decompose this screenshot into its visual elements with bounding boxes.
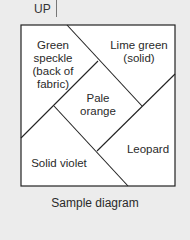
region-label-green-speckle: Green speckle (back of fabric): [24, 39, 82, 91]
label-line: Green: [24, 39, 82, 52]
label-line: (back of: [24, 65, 82, 78]
label-line: (solid): [104, 52, 174, 65]
label-line: fabric): [24, 78, 82, 91]
label-line: Solid violet: [26, 157, 92, 170]
label-line: Pale: [72, 92, 124, 105]
label-line: speckle: [24, 52, 82, 65]
region-label-leopard: Leopard: [120, 143, 176, 156]
diagram-caption: Sample diagram: [0, 196, 190, 210]
label-line: Leopard: [120, 143, 176, 156]
region-label-pale-orange: Pale orange: [72, 92, 124, 118]
label-line: orange: [72, 105, 124, 118]
region-label-lime-green: Lime green (solid): [104, 39, 174, 65]
region-label-solid-violet: Solid violet: [26, 157, 92, 170]
label-line: Lime green: [104, 39, 174, 52]
